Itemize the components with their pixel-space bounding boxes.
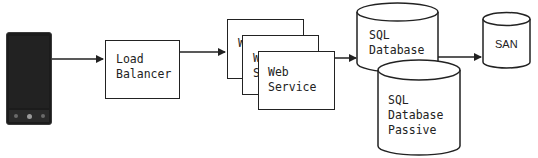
search-button-icon	[41, 114, 45, 118]
phone-screen	[9, 36, 49, 108]
sql-passive-label: SQL Database Passive	[388, 93, 443, 138]
back-button-icon	[14, 114, 18, 118]
web-service-3-label-2: Service	[268, 80, 334, 95]
web-service-node-3: Web Service	[258, 51, 335, 110]
load-balancer-label-1: Load	[116, 52, 179, 67]
load-balancer-node: Load Balancer	[105, 40, 180, 99]
sql-passive-label-2: Database	[388, 108, 443, 123]
web-service-3-label-1: Web	[268, 65, 334, 80]
load-balancer-label-2: Balancer	[116, 67, 179, 82]
sql-database-label-1: SQL	[369, 28, 424, 43]
sql-database-label-2: Database	[369, 43, 424, 58]
sql-database-label: SQL Database	[369, 28, 424, 58]
sql-passive-label-1: SQL	[388, 93, 443, 108]
sql-passive-label-3: Passive	[388, 123, 443, 138]
home-button-icon	[27, 114, 32, 119]
san-label: SAN	[495, 38, 518, 50]
mobile-phone-icon	[6, 32, 52, 125]
phone-buttons	[9, 110, 49, 122]
architecture-diagram: Load Balancer W W S Web Service SQL Data…	[0, 0, 538, 158]
